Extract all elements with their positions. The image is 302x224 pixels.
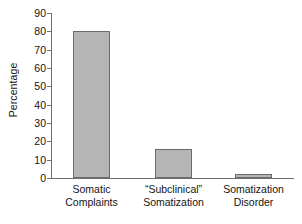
y-tick-mark [47, 50, 51, 51]
y-tick-mark [47, 141, 51, 142]
y-tick-label: 30 [20, 118, 46, 129]
bar-chart-figure: Percentage 0102030405060708090 Somatic C… [0, 0, 302, 224]
bar [73, 31, 110, 178]
y-tick-mark [47, 178, 51, 179]
bar [235, 174, 272, 178]
bar [155, 149, 192, 178]
y-tick-label: 90 [20, 8, 46, 19]
y-tick-label: 20 [20, 136, 46, 147]
y-tick-label: 0 [20, 173, 46, 184]
y-tick-label: 70 [20, 44, 46, 55]
y-tick-mark [47, 13, 51, 14]
y-axis-label-text: Percentage [7, 63, 19, 118]
y-tick-label: 80 [20, 26, 46, 37]
y-axis-tick-labels: 0102030405060708090 [20, 0, 46, 224]
y-tick-label: 10 [20, 154, 46, 165]
y-tick-label: 50 [20, 81, 46, 92]
x-axis-line [51, 178, 294, 179]
y-tick-mark [47, 160, 51, 161]
y-tick-mark [47, 31, 51, 32]
y-tick-label: 40 [20, 99, 46, 110]
y-tick-mark [47, 86, 51, 87]
y-axis-line [51, 13, 52, 179]
category-label: Somatization Disorder [206, 183, 302, 208]
y-tick-mark [47, 68, 51, 69]
y-tick-mark [47, 105, 51, 106]
y-tick-mark [47, 123, 51, 124]
y-tick-label: 60 [20, 63, 46, 74]
